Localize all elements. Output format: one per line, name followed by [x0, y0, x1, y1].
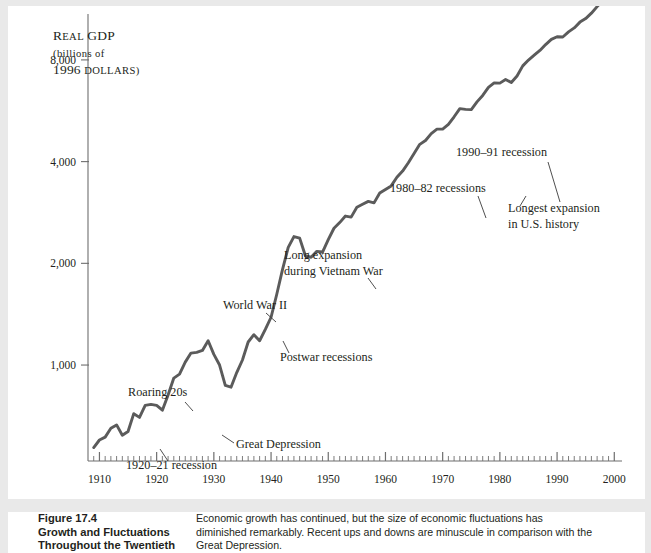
y-tick-label: 2,000 — [50, 257, 76, 270]
annotation-longest-expansion: Longest expansionin U.S. history — [508, 201, 600, 231]
x-tick-label: 1970 — [431, 473, 454, 485]
chart-annotations: Roaring 20s1920–21 recessionGreat Depres… — [126, 145, 600, 472]
annotation-recession-1990-91: 1990–91 recession — [456, 145, 547, 159]
x-tick-label: 2000 — [603, 473, 626, 485]
x-tick-label: 1990 — [546, 473, 569, 485]
x-tick-label: 1920 — [145, 473, 168, 485]
y-axis-label-line1: REAL GDP — [53, 28, 203, 46]
chart-panel: REAL GDP (billions of 1996 DOLLARS) 1,00… — [8, 6, 645, 499]
figure-title-line2: Throughout the Twentieth — [38, 539, 196, 553]
x-tick-label: 1930 — [202, 473, 225, 485]
annotation-great-depression: Great Depression — [236, 437, 321, 451]
x-tick-label: 1940 — [260, 473, 283, 485]
figure-number: Figure 17.4 — [38, 512, 196, 526]
figure-title-line1: Growth and Fluctuations — [38, 526, 196, 540]
gdp-log-chart: 1,0002,0004,0008,00019101920193019401950… — [8, 6, 645, 499]
caption-body-line3: Great Depression. — [196, 539, 615, 553]
annotation-vietnam-war-expansion: Long expansionduring Vietnam War — [284, 248, 383, 278]
annotation-leader — [185, 402, 193, 411]
annotation-recessions-1980-82: 1980–82 recessions — [390, 181, 486, 195]
y-axis-label: REAL GDP (billions of 1996 DOLLARS) — [53, 28, 203, 80]
x-tick-label: 1950 — [317, 473, 340, 485]
annotation-recession-1920-21: 1920–21 recession — [126, 458, 217, 472]
annotation-postwar-recessions: Postwar recessions — [280, 350, 373, 364]
y-axis-label-line3: 1996 DOLLARS) — [53, 62, 203, 80]
annotation-world-war-2: World War II — [223, 298, 287, 312]
y-tick-label: 1,000 — [50, 359, 76, 372]
y-tick-label: 4,000 — [50, 156, 76, 169]
figure-caption-body: Economic growth has continued, but the s… — [196, 512, 645, 553]
annotation-leader — [478, 196, 486, 218]
x-tick-label: 1960 — [374, 473, 397, 485]
annotation-roaring-20s: Roaring 20s — [128, 385, 187, 399]
annotation-leader — [222, 435, 234, 443]
x-tick-label: 1980 — [488, 473, 511, 485]
annotation-leader — [548, 162, 560, 202]
caption-band: Figure 17.4 Growth and Fluctuations Thro… — [8, 512, 645, 553]
caption-body-line2: diminished remarkably. Recent ups and do… — [196, 526, 615, 540]
caption-body-line1: Economic growth has continued, but the s… — [196, 512, 615, 526]
x-tick-label: 1910 — [88, 473, 111, 485]
annotation-leader — [368, 278, 376, 289]
figure-caption-title: Figure 17.4 Growth and Fluctuations Thro… — [8, 512, 196, 553]
y-axis-label-line2: (billions of — [53, 46, 203, 63]
figure-page: REAL GDP (billions of 1996 DOLLARS) 1,00… — [0, 0, 651, 553]
